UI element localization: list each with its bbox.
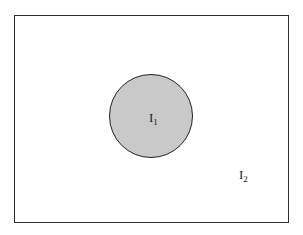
outer-region-label-subscript: 2 xyxy=(243,174,248,184)
outer-region-label: I2 xyxy=(239,168,248,184)
inner-region-label-subscript: 1 xyxy=(153,117,158,127)
inner-region-label: I1 xyxy=(149,111,158,127)
